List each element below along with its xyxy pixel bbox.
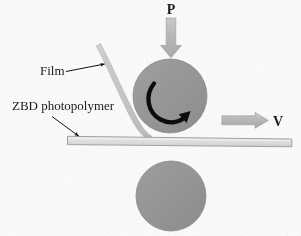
lamination-diagram: P V Film ZBD photopolymer <box>0 0 301 236</box>
scan-grain-overlay <box>0 0 301 236</box>
figure-container: P V Film ZBD photopolymer <box>0 0 301 236</box>
